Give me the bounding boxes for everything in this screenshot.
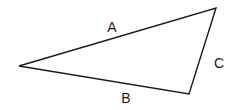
side-label-a: A xyxy=(107,19,117,35)
side-label-b: B xyxy=(121,90,130,106)
triangle-shape xyxy=(19,8,216,94)
triangle-diagram: A B C xyxy=(0,0,238,110)
side-label-c: C xyxy=(214,55,224,71)
